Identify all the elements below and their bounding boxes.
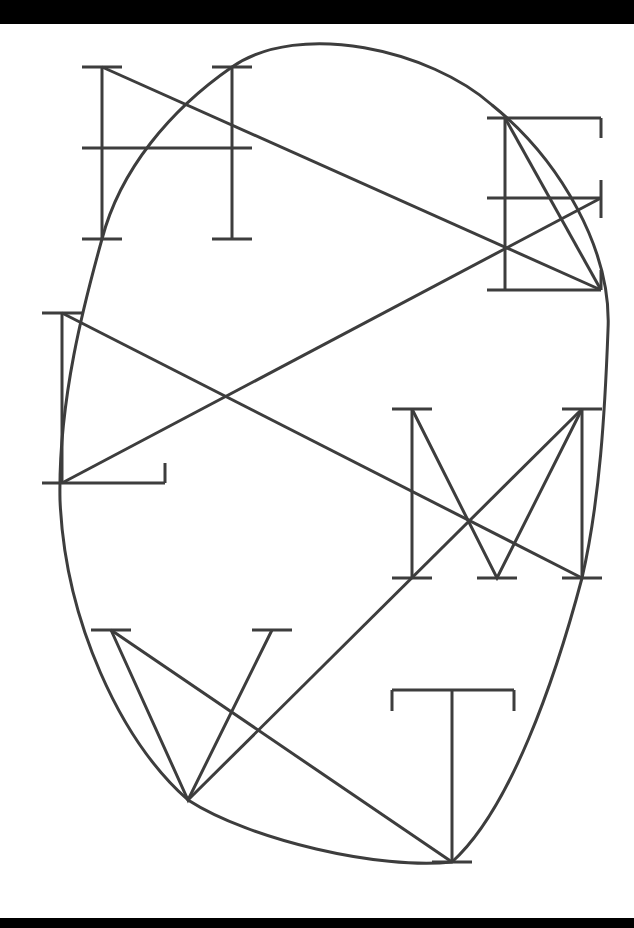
connector-lines bbox=[62, 67, 601, 862]
bottom-black-bar bbox=[0, 918, 634, 928]
letter-h bbox=[82, 67, 252, 239]
letter-network-drawing bbox=[0, 0, 634, 928]
letter-t bbox=[392, 690, 514, 862]
drawing-strokes bbox=[42, 44, 608, 864]
blob-outline bbox=[60, 44, 608, 864]
